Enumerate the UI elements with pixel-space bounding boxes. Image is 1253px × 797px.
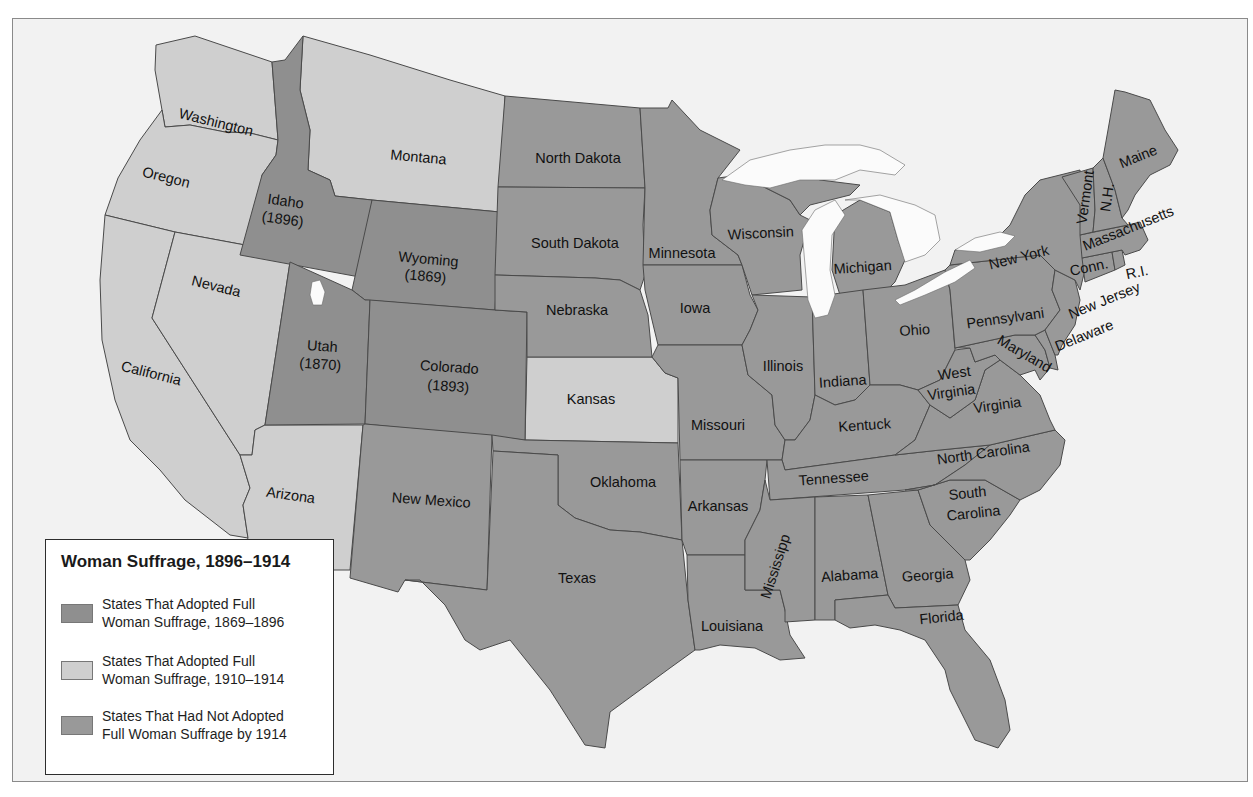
label-illinois: Illinois: [763, 358, 803, 374]
label-utah-year: (1870): [299, 355, 342, 374]
state-north-dakota[interactable]: [498, 96, 645, 188]
legend-item-adopted-1869-1896: States That Adopted Full Woman Suffrage,…: [61, 595, 284, 631]
label-missouri: Missouri: [691, 417, 745, 433]
label-texas: Texas: [558, 570, 596, 586]
legend-swatch-medium: [61, 716, 93, 735]
label-rhode-island: R.I.: [1124, 262, 1149, 282]
label-iowa: Iowa: [680, 300, 712, 316]
legend-label: States That Adopted Full Woman Suffrage,…: [102, 652, 284, 688]
legend-item-adopted-1910-1914: States That Adopted Full Woman Suffrage,…: [61, 652, 284, 688]
map-legend: Woman Suffrage, 1896–1914 States That Ad…: [45, 539, 334, 775]
legend-swatch-dark: [61, 604, 93, 623]
legend-item-not-adopted: States That Had Not Adopted Full Woman S…: [61, 707, 287, 743]
state-new-mexico[interactable]: [350, 424, 492, 592]
label-arkansas: Arkansas: [688, 498, 748, 514]
label-colorado-year: (1893): [427, 377, 470, 396]
label-oklahoma: Oklahoma: [590, 474, 657, 490]
label-minnesota: Minnesota: [649, 245, 717, 261]
label-north-dakota: North Dakota: [535, 150, 621, 166]
label-louisiana: Louisiana: [701, 618, 764, 634]
legend-swatch-light: [61, 661, 93, 680]
label-kansas: Kansas: [567, 391, 615, 407]
legend-label: States That Had Not Adopted Full Woman S…: [102, 707, 287, 743]
label-utah: Utah: [307, 337, 339, 355]
label-south-dakota: South Dakota: [531, 235, 620, 251]
legend-title: Woman Suffrage, 1896–1914: [61, 552, 290, 572]
label-nebraska: Nebraska: [546, 302, 609, 318]
label-ohio: Ohio: [899, 321, 931, 339]
legend-label: States That Adopted Full Woman Suffrage,…: [102, 595, 284, 631]
label-indiana: Indiana: [818, 371, 868, 390]
